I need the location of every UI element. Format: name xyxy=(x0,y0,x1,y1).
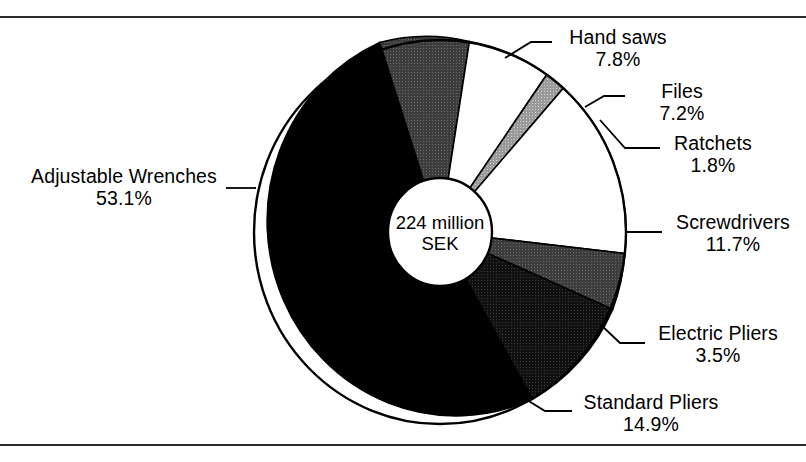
slice-label-standard-pliers-value: 14.9% xyxy=(566,414,736,436)
slice-label-files: Files 7.2% xyxy=(622,81,742,125)
slice-label-screwdrivers: Screwdrivers 11.7% xyxy=(658,212,806,256)
slice-label-files-name: Files xyxy=(622,81,742,103)
slice-label-ratchets-name: Ratchets xyxy=(648,133,778,155)
slice-label-hand-saws: Hand saws 7.8% xyxy=(548,27,688,71)
pie-center-annotation: 224 million SEK xyxy=(370,212,510,255)
slice-label-adjustable-wrenches-value: 53.1% xyxy=(18,188,230,210)
leader-line-files xyxy=(585,96,625,107)
slice-label-hand-saws-name: Hand saws xyxy=(548,27,688,49)
slice-label-files-value: 7.2% xyxy=(622,103,742,125)
slice-label-electric-pliers: Electric Pliers 3.5% xyxy=(638,323,798,367)
slice-label-screwdrivers-value: 11.7% xyxy=(658,234,806,256)
slice-label-hand-saws-value: 7.8% xyxy=(548,49,688,71)
slice-label-standard-pliers-name: Standard Pliers xyxy=(566,392,736,414)
slice-label-screwdrivers-name: Screwdrivers xyxy=(658,212,806,234)
slice-label-adjustable-wrenches-name: Adjustable Wrenches xyxy=(18,166,230,188)
slice-label-electric-pliers-name: Electric Pliers xyxy=(638,323,798,345)
pie-chart-figure: Hand saws 7.8% Files 7.2% Ratchets 1.8% … xyxy=(0,0,806,462)
slice-label-ratchets-value: 1.8% xyxy=(648,155,778,177)
pie-center-unit: SEK xyxy=(370,233,510,254)
pie-center-value: 224 million xyxy=(370,212,510,233)
slice-label-ratchets: Ratchets 1.8% xyxy=(648,133,778,177)
slice-label-electric-pliers-value: 3.5% xyxy=(638,345,798,367)
slice-label-standard-pliers: Standard Pliers 14.9% xyxy=(566,392,736,436)
slice-label-adjustable-wrenches: Adjustable Wrenches 53.1% xyxy=(18,166,230,210)
